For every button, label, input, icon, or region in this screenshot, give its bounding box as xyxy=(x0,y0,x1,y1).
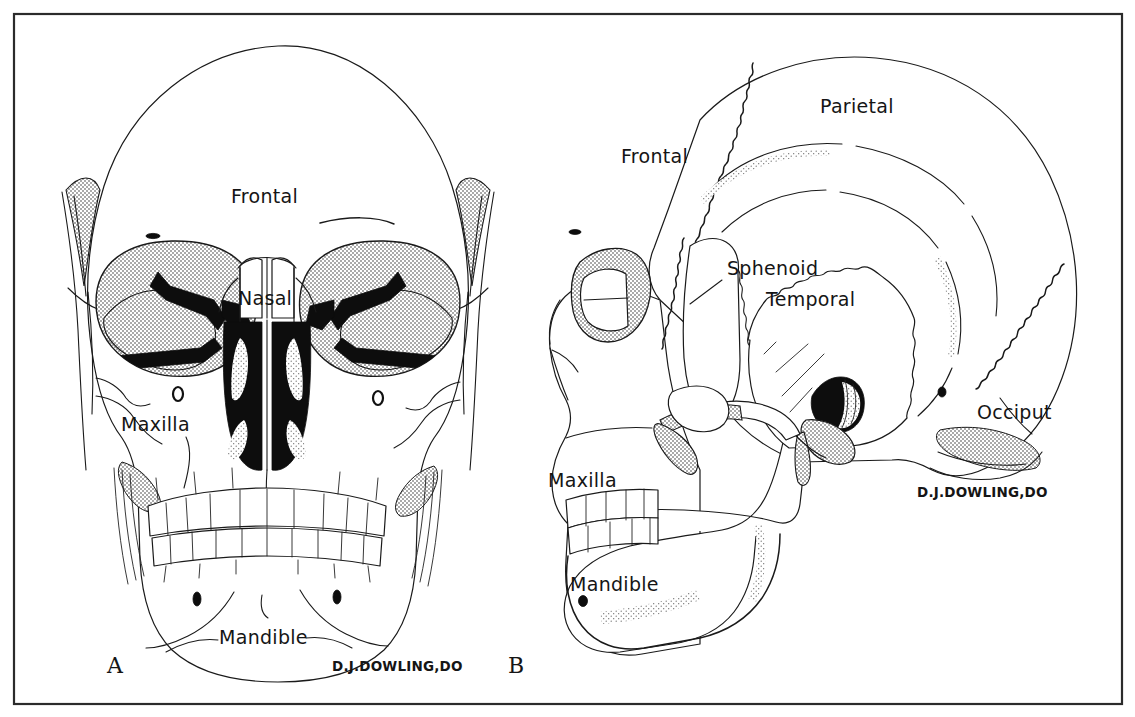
left-mental-foramen xyxy=(193,592,201,606)
label-temporal: Temporal xyxy=(765,288,855,310)
signature-panel-a: D.J.DOWLING,DO xyxy=(332,658,463,674)
label-parietal: Parietal xyxy=(820,95,894,117)
panel-a-anterior-skull: Frontal Nasal Maxilla Mandible A D.J.DOW… xyxy=(62,46,494,682)
label-occiput: Occiput xyxy=(977,401,1052,423)
label-mandible-anterior: Mandible xyxy=(219,626,308,648)
right-orbit xyxy=(300,241,460,376)
lateral-supraorbital-foramen xyxy=(569,230,581,235)
right-infraorbital-foramen xyxy=(373,391,383,405)
label-frontal-lateral: Frontal xyxy=(621,145,688,167)
panel-b-lateral-skull: Parietal Frontal Sphenoid Temporal Occip… xyxy=(508,57,1077,678)
label-maxilla-anterior: Maxilla xyxy=(121,413,190,435)
lateral-mental-foramen xyxy=(579,596,588,607)
left-infraorbital-foramen xyxy=(173,387,183,401)
left-supraorbital-foramen xyxy=(146,233,160,238)
label-frontal-anterior: Frontal xyxy=(231,185,298,207)
label-maxilla-lateral: Maxilla xyxy=(548,469,617,491)
figure-page: Frontal Nasal Maxilla Mandible A D.J.DOW… xyxy=(0,0,1135,717)
label-mandible-lateral: Mandible xyxy=(570,573,659,595)
mastoid-foramen xyxy=(938,387,946,397)
skull-illustration: Frontal Nasal Maxilla Mandible A D.J.DOW… xyxy=(0,0,1135,717)
label-nasal: Nasal xyxy=(238,287,292,309)
signature-panel-b: D.J.DOWLING,DO xyxy=(917,484,1048,500)
panel-letter-b: B xyxy=(508,653,524,678)
label-sphenoid: Sphenoid xyxy=(727,257,818,279)
right-mental-foramen xyxy=(333,590,341,604)
panel-letter-a: A xyxy=(106,653,124,678)
